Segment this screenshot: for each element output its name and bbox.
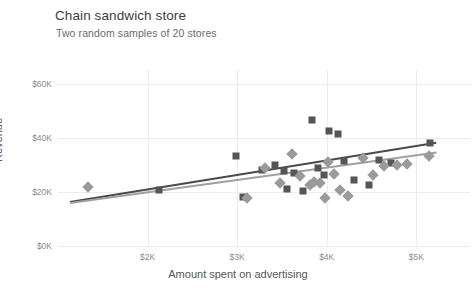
x-tick-label: $2K [140,252,155,262]
data-point [286,149,297,160]
data-point [299,188,306,195]
data-point [284,185,291,192]
data-point [232,152,239,159]
data-point [402,159,413,170]
x-axis-title: Amount spent on advertising [0,268,476,280]
x-tick-label: $4K [319,252,334,262]
gridline-vertical [148,70,149,246]
y-tick-label: $40K [32,133,52,143]
y-axis-ticks: $0K$20K$40K$60K [0,70,52,246]
gridline-vertical [416,70,417,246]
plot-area [58,70,470,246]
data-point [82,181,93,192]
trendline-1 [69,141,436,202]
data-point [309,116,316,123]
data-point [328,168,339,179]
chart-title: Chain sandwich store [55,8,186,23]
data-point [368,169,379,180]
data-point [335,131,342,138]
gridline-horizontal [58,138,470,139]
data-point [340,158,347,165]
data-point [350,176,357,183]
data-point [426,140,433,147]
data-point [271,162,278,169]
data-point [314,165,321,172]
chart-subtitle: Two random samples of 20 stores [56,27,217,39]
data-point [365,181,372,188]
x-tick-label: $5K [409,252,424,262]
gridline-horizontal [58,246,470,247]
x-tick-label: $3K [230,252,245,262]
data-point [319,192,330,203]
x-axis-ticks: $2K$3K$4K$5K [58,252,470,266]
data-point [321,172,328,179]
data-point [280,168,287,175]
gridline-horizontal [58,84,470,85]
chart-container: Chain sandwich store Two random samples … [0,0,476,304]
data-point [156,186,163,193]
y-tick-label: $0K [37,241,52,251]
y-tick-label: $60K [32,79,52,89]
data-point [326,128,333,135]
y-tick-label: $20K [32,187,52,197]
y-axis-title: Revenue [0,118,4,162]
